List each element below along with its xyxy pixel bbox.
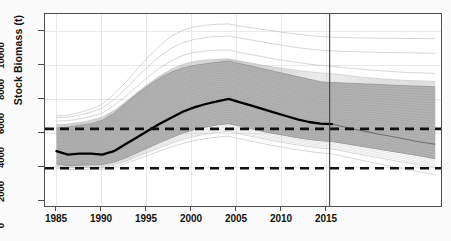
x-tick-label-2015: 2015 (306, 213, 346, 224)
y-tick-label-6000: 6000 (0, 104, 6, 144)
y-tick-label-2000: 2000 (0, 172, 6, 212)
y-tick-label-4000: 4000 (0, 138, 6, 178)
x-tick-label-1990: 1990 (81, 213, 121, 224)
x-tick-label-1995: 1995 (126, 213, 166, 224)
x-tick-label-2005: 2005 (216, 213, 256, 224)
x-tick-label-2010: 2010 (261, 213, 301, 224)
y-tick-label-10000: 10000 (0, 36, 6, 76)
chart-series-layer (45, 14, 441, 206)
plot-area (44, 13, 442, 207)
stock-biomass-chart: Stock Biomass (t) 0 2000 4000 6000 8000 … (0, 0, 451, 241)
x-tick-label-2000: 2000 (171, 213, 211, 224)
y-axis-title: Stock Biomass (t) (12, 0, 24, 140)
chart-svg (45, 14, 441, 206)
x-tick-label-1985: 1985 (36, 213, 76, 224)
y-tick-label-8000: 8000 (0, 70, 6, 110)
